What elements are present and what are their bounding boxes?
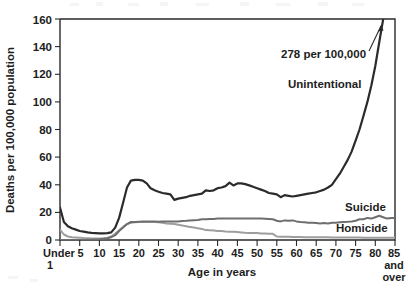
- x-tick-label-under1-line1: Under: [43, 247, 76, 259]
- x-tick-label-70: 70: [330, 247, 342, 259]
- line-chart-svg: 0 20 40 60 80 100 120 140 160 Deaths per…: [0, 0, 412, 294]
- y-tick-label-20: 20: [39, 206, 52, 218]
- series-label-homicide: Homicide: [336, 222, 388, 234]
- x-tick-label-30: 30: [172, 247, 184, 259]
- x-tick-label-under1-line2: 1: [47, 259, 53, 271]
- x-tick-label-65: 65: [310, 247, 322, 259]
- annotation-label: 278 per 100,000: [281, 48, 366, 60]
- y-tick-label-0: 0: [46, 234, 52, 246]
- x-tick-label-40: 40: [211, 247, 223, 259]
- chart-figure: 0 20 40 60 80 100 120 140 160 Deaths per…: [0, 0, 412, 294]
- x-tick-label-80: 80: [369, 247, 381, 259]
- x-tick-label-75: 75: [349, 247, 361, 259]
- y-tick-label-80: 80: [39, 124, 52, 136]
- x-tick-label-85-line1: 85: [388, 247, 400, 259]
- x-tick-label-35: 35: [192, 247, 204, 259]
- y-tick-label-120: 120: [33, 68, 52, 80]
- series-label-suicide: Suicide: [345, 201, 386, 213]
- x-tick-label-25: 25: [152, 247, 164, 259]
- x-axis-title: Age in years: [188, 266, 256, 278]
- x-tick-label-50: 50: [251, 247, 263, 259]
- x-tick-label-45: 45: [231, 247, 243, 259]
- x-tick-label-15: 15: [113, 247, 125, 259]
- y-tick-label-40: 40: [39, 179, 52, 191]
- x-tick-label-85-line3: over: [382, 271, 406, 283]
- x-tick-label-85-line2: and: [384, 259, 404, 271]
- y-tick-label-100: 100: [33, 96, 52, 108]
- y-tick-label-160: 160: [33, 14, 52, 26]
- x-tick-label-20: 20: [133, 247, 145, 259]
- x-tick-label-60: 60: [290, 247, 302, 259]
- y-axis-title: Deaths per 100,000 population: [4, 47, 16, 213]
- x-tick-label-5: 5: [77, 247, 83, 259]
- x-tick-label-55: 55: [271, 247, 283, 259]
- series-label-unintentional: Unintentional: [288, 78, 361, 90]
- y-tick-label-140: 140: [33, 41, 52, 53]
- y-tick-label-60: 60: [39, 151, 52, 163]
- x-tick-label-10: 10: [93, 247, 105, 259]
